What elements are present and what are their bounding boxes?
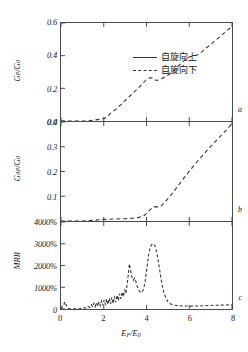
ytick-b-3: 0.1 (47, 192, 57, 202)
legend-label-spin-down: 自旋向下 (161, 64, 197, 77)
x-axis-label: EF/E0 (121, 328, 141, 338)
xlab-mid: /E (130, 328, 138, 338)
ytick-a-1: 0.4 (47, 50, 57, 60)
xtick-2: 4 (144, 313, 148, 323)
ylab-b-sub: AP (15, 168, 21, 175)
panel-label-b: b (238, 205, 242, 214)
ylab-a-sub2: 0 (15, 60, 21, 63)
ylab-b-g: G (12, 175, 22, 181)
xlab-sub2: 0 (138, 332, 141, 338)
legend-key-dashed (133, 70, 157, 71)
ytick-c-2: 2000% (34, 261, 57, 271)
legend: 自旋向上 自旋向下 (133, 51, 197, 77)
legend-item-spin-down: 自旋向下 (133, 64, 197, 77)
y-axis-label-b: GAP/G0 (12, 156, 22, 181)
series-line-mrr (61, 244, 232, 309)
ytick-b-0: 0.4 (47, 117, 57, 127)
y-axis-label-c: MRR (12, 252, 22, 269)
ytick-b-1: 0.3 (47, 142, 57, 152)
ytick-b-2: 0.2 (47, 167, 57, 177)
ylab-b-sub2: 0 (15, 156, 21, 159)
plot-area-b (61, 122, 232, 221)
ytick-c-0: 4000% (34, 217, 57, 227)
y-axis-ticks-panel-a: 0.6 0.4 0.2 0.0 (0, 22, 57, 122)
series-line-spin-down-b (61, 122, 232, 221)
plot-area-c (61, 222, 232, 309)
ylab-a-rest: /G (12, 63, 22, 72)
legend-item-spin-up: 自旋向上 (133, 51, 197, 64)
y-axis-ticks-panel-c: 4000% 3000% 2000% 1000% 0 (0, 222, 57, 310)
ytick-c-3: 1000% (34, 283, 57, 293)
figure-root: 0.6 0.4 0.2 0.0 0.4 0.3 0.2 0.1 4000% 30… (0, 0, 248, 352)
legend-key-solid (133, 57, 157, 58)
ylab-a-sub: P (15, 72, 21, 76)
tick-marks-c (61, 222, 232, 309)
chart-panel-c (60, 222, 233, 310)
xtick-0: 0 (58, 313, 62, 323)
xtick-4: 8 (231, 313, 235, 323)
y-axis-label-a: GP/G0 (12, 60, 22, 81)
tick-marks-b (61, 122, 232, 221)
legend-label-spin-up: 自旋向上 (161, 51, 197, 64)
ylab-a-g: G (12, 75, 22, 81)
chart-panel-b (60, 122, 233, 222)
chart-panel-a: 自旋向上 自旋向下 (60, 22, 233, 122)
panel-label-c: c (238, 293, 242, 302)
ytick-c-1: 3000% (34, 239, 57, 249)
panel-label-a: a (238, 105, 242, 114)
y-axis-ticks-panel-b: 0.4 0.3 0.2 0.1 (0, 122, 57, 222)
xtick-1: 2 (101, 313, 105, 323)
ylab-b-rest: /G (12, 159, 22, 168)
xtick-3: 6 (188, 313, 192, 323)
ytick-c-4: 0 (53, 305, 57, 315)
ytick-a-0: 0.6 (47, 17, 57, 27)
ytick-a-2: 0.2 (47, 84, 57, 94)
